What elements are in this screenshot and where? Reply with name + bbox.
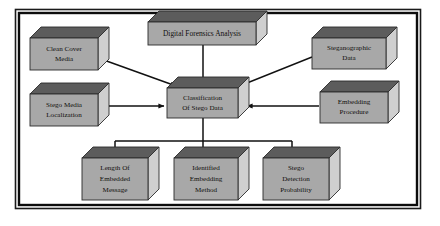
length-of-embedded-message-label-line3: Message <box>103 186 128 194</box>
stego-detection-probability-label-line2: Detection <box>282 175 310 183</box>
identified-embedding-method-label-line1: Identified <box>192 164 220 172</box>
stego-detection-probability-label-line3: Probability <box>280 186 312 194</box>
steganographic-data-box[interactable]: Steganographic Data <box>312 27 397 69</box>
length-of-embedded-message-label-line2: Embedded <box>100 175 131 183</box>
clean-cover-media-label-line1: Clean Cover <box>46 45 82 53</box>
stego-media-localization-label-line1: Stego Media <box>46 101 83 109</box>
embedding-procedure-label-line1: Embedding <box>338 98 371 106</box>
steganographic-data-label-line2: Data <box>342 54 356 62</box>
identified-embedding-method-label-line2: Embedding <box>190 175 223 183</box>
stego-classification-diagram: Clean Cover Media Digital Forensics Anal… <box>0 0 440 226</box>
stego-media-localization-label-line2: Localization <box>46 111 82 119</box>
length-of-embedded-message-box[interactable]: Length Of Embedded Message <box>82 147 159 200</box>
identified-embedding-method-label-line3: Method <box>195 186 218 194</box>
digital-forensics-analysis-label: Digital Forensics Analysis <box>163 29 241 38</box>
diagram-canvas: Clean Cover Media Digital Forensics Anal… <box>0 0 440 226</box>
clean-cover-media-label-line2: Media <box>55 55 74 63</box>
length-of-embedded-message-label-line1: Length Of <box>100 164 130 172</box>
identified-embedding-method-box[interactable]: Identified Embedding Method <box>174 147 249 200</box>
stego-detection-probability-box[interactable]: Stego Detection Probability <box>263 147 340 200</box>
classification-of-stego-data-box[interactable]: Classification Of Stego Data <box>167 77 249 118</box>
digital-forensics-analysis-box[interactable]: Digital Forensics Analysis <box>148 11 267 45</box>
classification-of-stego-data-label-line1: Classification <box>183 94 222 102</box>
classification-of-stego-data-label-line2: Of Stego Data <box>182 104 223 112</box>
stego-media-localization-box[interactable]: Stego Media Localization <box>30 83 109 126</box>
stego-detection-probability-label-line1: Stego <box>288 164 305 172</box>
steganographic-data-label-line1: Steganographic <box>327 44 371 52</box>
embedding-procedure-label-line2: Procedure <box>340 108 369 116</box>
embedding-procedure-box[interactable]: Embedding Procedure <box>320 81 399 123</box>
clean-cover-media-box[interactable]: Clean Cover Media <box>30 27 109 70</box>
